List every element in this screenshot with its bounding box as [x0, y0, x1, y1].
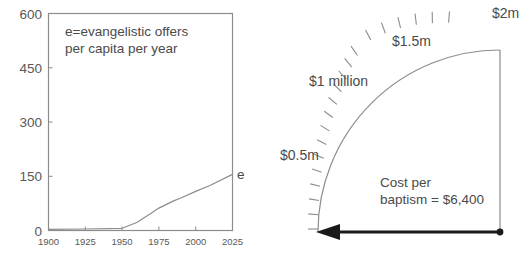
gauge-tick [309, 199, 319, 201]
gauge-label-two-million: $2m [492, 5, 519, 21]
gauge-tick [449, 12, 450, 23]
gauge-tick [321, 125, 330, 130]
gauge-label-one-and-half-million: $1.5m [392, 33, 431, 49]
gauge-tick [310, 184, 320, 186]
annotation-line-1: e=evangelistic offers [65, 24, 188, 39]
gauge-tick [415, 14, 416, 25]
left-line-chart: 600 450 300 150 0 1900 1925 1950 1975 20… [19, 7, 244, 248]
gauge-tick [381, 23, 385, 34]
gauge-tick [329, 98, 337, 105]
x-axis-label-1925: 1925 [75, 236, 96, 247]
gauge-tick [398, 17, 401, 28]
gauge-tick [312, 169, 322, 172]
gauge-tick [345, 58, 352, 67]
x-axis-label-2000: 2000 [185, 236, 206, 247]
gauge-pivot-dot [497, 229, 504, 236]
x-axis-label-1950: 1950 [112, 236, 133, 247]
y-axis-label-150: 150 [19, 169, 42, 184]
gauge-label-half-million: $0.5m [280, 147, 319, 163]
gauge-caption-line-2: baptism = $6,400 [380, 192, 484, 207]
gauge-tick [351, 46, 358, 55]
x-axis-label-1975: 1975 [148, 236, 169, 247]
series-label-e: e [237, 167, 245, 182]
gauge-label-one-million: $1 million [309, 73, 368, 89]
gauge-tick [324, 111, 333, 117]
y-axis-label-600: 600 [19, 7, 42, 22]
x-axis-label-1900: 1900 [38, 236, 59, 247]
annotation-line-2: per capita per year [65, 41, 178, 56]
gauge-tick [366, 30, 371, 40]
y-axis-label-450: 450 [19, 61, 42, 76]
gauge-tick [308, 214, 318, 215]
figure-canvas: 600 450 300 150 0 1900 1925 1950 1975 20… [0, 0, 530, 268]
right-gauge-chart: $0.5m $1 million $1.5m $2m Cost per bapt… [280, 5, 519, 240]
gauge-tick [317, 140, 326, 145]
gauge-needle-arrowhead [316, 224, 340, 240]
combined-figure-svg: 600 450 300 150 0 1900 1925 1950 1975 20… [0, 0, 530, 268]
x-axis-label-2025: 2025 [222, 236, 243, 247]
y-axis-label-300: 300 [19, 115, 42, 130]
gauge-caption-line-1: Cost per [380, 175, 432, 190]
